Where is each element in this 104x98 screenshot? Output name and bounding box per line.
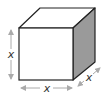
cube-front-face: [19, 28, 73, 80]
cube-diagram: x x x: [0, 0, 104, 98]
cube-figure: x x x: [0, 0, 104, 98]
height-label: x: [7, 48, 15, 61]
depth-label: x: [85, 71, 93, 84]
width-label: x: [43, 82, 51, 95]
